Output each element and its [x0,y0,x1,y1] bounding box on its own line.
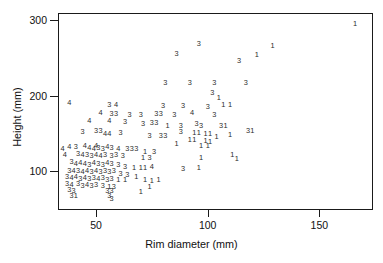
data-point-group-3: 3 [212,112,216,119]
data-point-group-1: 1 [228,131,232,138]
data-point-group-3: 3 [154,110,158,117]
data-point-group-1: 1 [255,51,259,58]
y-axis-title: Height (mm) [11,52,23,182]
data-point-group-1: 1 [235,156,239,163]
data-point-group-1: 1 [228,102,232,109]
data-point-group-3: 3 [163,80,167,87]
data-point-group-3: 3 [114,151,118,158]
data-point-group-3: 3 [116,161,120,168]
data-point-group-1: 1 [188,137,192,144]
data-point-group-3: 3 [150,119,154,126]
y-tick-mark [50,20,58,21]
data-point-group-1: 1 [192,137,196,144]
data-point-group-4: 4 [103,131,107,138]
data-point-group-1: 1 [141,154,145,161]
data-point-group-1: 1 [199,143,203,150]
data-point-group-3: 3 [134,146,138,153]
data-point-group-3: 3 [103,151,107,158]
data-point-group-3: 3 [110,195,114,202]
data-point-group-1: 1 [353,21,357,28]
data-point-group-3: 3 [119,130,123,137]
data-point-group-3: 3 [89,182,93,189]
data-point-group-1: 1 [197,130,201,137]
data-point-group-1: 1 [217,94,221,101]
data-point-group-3: 3 [154,119,158,126]
data-point-group-3: 3 [121,153,125,160]
data-point-group-1: 1 [165,122,169,129]
data-point-group-3: 3 [81,128,85,135]
data-point-group-3: 3 [130,146,134,153]
data-point-group-3: 3 [94,181,98,188]
y-tick-mark [50,171,58,172]
data-point-group-3: 3 [148,132,152,139]
plot-area: 1313133333311143433343333333434433331333… [58,13,373,210]
data-point-group-3: 3 [76,181,80,188]
data-point-group-3: 3 [107,101,111,108]
data-point-group-3: 3 [94,127,98,134]
data-point-group-1: 1 [206,142,210,149]
data-point-group-3: 3 [210,90,214,97]
data-point-group-3: 3 [152,149,156,156]
data-point-group-1: 1 [143,164,147,171]
data-point-group-3: 3 [219,122,223,129]
x-tick-mark [96,210,97,217]
data-point-group-4: 4 [98,109,102,116]
data-point-group-1: 1 [132,165,136,172]
data-point-group-3: 3 [76,150,80,157]
data-point-group-4: 4 [85,181,89,188]
data-point-group-3: 3 [125,146,129,153]
data-point-group-4: 4 [67,143,71,150]
data-point-group-4: 4 [190,109,194,116]
data-point-group-3: 3 [212,80,216,87]
data-point-group-1: 1 [270,42,274,49]
data-point-group-3: 3 [246,127,250,134]
x-tick-label: 100 [199,219,217,231]
data-point-group-3: 3 [194,121,198,128]
data-point-group-3: 3 [123,118,127,125]
data-point-group-3: 3 [163,132,167,139]
data-point-group-4: 4 [105,159,109,166]
data-point-group-3: 3 [69,192,73,199]
data-point-group-1: 1 [197,164,201,171]
data-point-group-1: 1 [157,177,161,184]
data-point-group-4: 4 [63,151,67,158]
y-tick-mark [50,96,58,97]
data-point-group-1: 1 [134,173,138,180]
y-tick-label: 100 [29,165,47,177]
data-point-group-1: 1 [174,140,178,147]
data-point-group-3: 3 [127,111,131,118]
data-point-group-3: 3 [81,182,85,189]
data-point-group-1: 1 [139,165,143,172]
data-point-group-4: 4 [83,143,87,150]
x-tick-label: 150 [311,219,329,231]
data-point-group-3: 3 [69,159,73,166]
data-point-group-3: 3 [179,128,183,135]
data-point-group-4: 4 [107,118,111,125]
y-tick-label: 300 [29,14,47,26]
data-point-group-3: 3 [172,111,176,118]
data-point-group-3: 3 [174,50,178,57]
data-point-group-4: 4 [107,131,111,138]
scatter-plot-figure: 100200300 50100150 131313333331114343334… [0,0,383,263]
data-point-group-3: 3 [101,182,105,189]
data-point-group-3: 3 [114,110,118,117]
data-point-group-3: 3 [139,111,143,118]
data-point-group-1: 1 [143,177,147,184]
data-point-group-3: 3 [148,155,152,162]
data-point-group-3: 3 [123,163,127,170]
x-tick-mark [319,210,320,217]
data-point-group-1: 1 [123,177,127,184]
x-tick-mark [208,210,209,217]
y-tick-label: 200 [29,90,47,102]
data-point-group-3: 3 [181,165,185,172]
data-point-group-3: 3 [98,127,102,134]
data-point-group-4: 4 [114,101,118,108]
data-point-group-3: 3 [244,80,248,87]
data-point-group-4: 4 [92,159,96,166]
x-axis-title: Rim diameter (mm) [0,238,383,250]
data-point-group-1: 1 [74,192,78,199]
data-point-group-3: 3 [85,151,89,158]
x-tick-label: 50 [90,219,102,231]
data-point-group-4: 4 [150,163,154,170]
data-point-group-4: 4 [87,117,91,124]
